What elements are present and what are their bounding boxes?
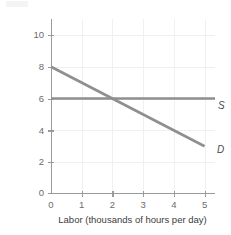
x-tick-label: 0 xyxy=(41,200,61,210)
x-tick-label: 4 xyxy=(164,200,184,210)
gridline-vertical xyxy=(174,19,175,194)
gridline-horizontal xyxy=(51,35,215,36)
y-tick-label: 10 xyxy=(24,30,44,40)
y-tick-label: 2 xyxy=(24,157,44,167)
x-axis-tick xyxy=(174,191,175,197)
demand-curve-label: D xyxy=(217,145,224,155)
x-axis-tick xyxy=(143,191,144,197)
gridline-vertical xyxy=(205,19,206,194)
x-axis-tick xyxy=(112,191,113,197)
y-tick-label: 8 xyxy=(24,62,44,72)
gridline-vertical xyxy=(112,19,113,194)
labor-market-chart: 0 2 4 6 8 10 0 1 2 3 4 5 S D Wage rate (… xyxy=(0,0,231,235)
x-tick-label: 5 xyxy=(195,200,215,210)
supply-curve-label: S xyxy=(218,101,225,111)
y-axis-tick xyxy=(48,193,54,194)
x-axis-tick xyxy=(205,191,206,197)
y-tick-label: 6 xyxy=(24,94,44,104)
y-axis-line xyxy=(51,19,52,194)
x-axis-line xyxy=(51,193,215,194)
gridline-horizontal xyxy=(51,162,215,163)
gridline-vertical xyxy=(82,19,83,194)
y-axis-tick xyxy=(48,35,54,36)
x-axis-tick xyxy=(82,191,83,197)
y-tick-label: 4 xyxy=(24,126,44,136)
gridline-vertical xyxy=(143,19,144,194)
scan-artifact xyxy=(6,1,28,7)
x-axis-title: Labor (thousands of hours per day) xyxy=(40,214,225,225)
x-tick-label: 1 xyxy=(72,200,92,210)
y-axis-tick xyxy=(48,99,54,100)
y-tick-label: 0 xyxy=(24,188,44,198)
y-axis-tick xyxy=(48,130,54,131)
x-tick-label: 3 xyxy=(133,200,153,210)
gridline-horizontal xyxy=(51,99,215,100)
gridline-horizontal xyxy=(51,67,215,68)
gridline-horizontal xyxy=(51,130,215,131)
y-axis-tick xyxy=(48,67,54,68)
y-axis-tick xyxy=(48,162,54,163)
plot-area xyxy=(51,19,215,194)
x-tick-label: 2 xyxy=(102,200,122,210)
